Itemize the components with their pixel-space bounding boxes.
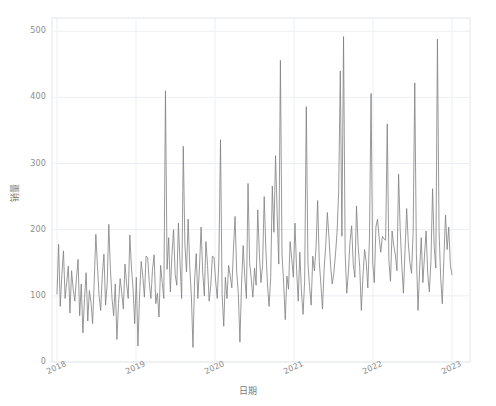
y-tick-label: 300 xyxy=(20,159,46,168)
plot-area-border xyxy=(52,18,470,362)
chart-canvas xyxy=(0,0,496,406)
y-tick-label: 100 xyxy=(20,291,46,300)
x-axis-title: 日期 xyxy=(0,384,496,397)
chart-figure: 0100200300400500 20182019202020212022202… xyxy=(0,0,496,406)
y-axis-title: 销量 xyxy=(8,184,21,202)
y-tick-label: 200 xyxy=(20,225,46,234)
y-tick-label: 0 xyxy=(20,357,46,366)
y-tick-label: 500 xyxy=(20,26,46,35)
y-tick-label: 400 xyxy=(20,92,46,101)
